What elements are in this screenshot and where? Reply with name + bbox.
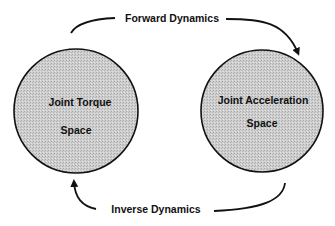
joint-acceleration-label-line1: Joint Acceleration bbox=[218, 95, 309, 106]
joint-torque-label-line1: Joint Torque bbox=[49, 97, 112, 108]
joint-torque-label-line2: Space bbox=[61, 125, 92, 136]
forward-dynamics-arrow-right bbox=[226, 19, 298, 53]
joint-torque-space-node bbox=[14, 49, 138, 173]
inverse-dynamics-arrow-left bbox=[74, 182, 96, 209]
joint-acceleration-label-line2: Space bbox=[247, 118, 278, 129]
forward-dynamics-label: Forward Dynamics bbox=[125, 13, 219, 24]
inverse-dynamics-label: Inverse Dynamics bbox=[111, 204, 200, 215]
inverse-dynamics-arrow-right bbox=[214, 183, 285, 211]
dynamics-diagram bbox=[0, 0, 335, 226]
joint-acceleration-space-node bbox=[201, 50, 323, 172]
forward-dynamics-arrow-left bbox=[71, 18, 115, 33]
